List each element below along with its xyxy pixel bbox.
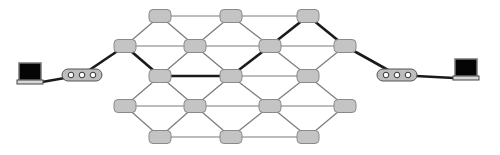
router-node-r2c3 — [259, 40, 281, 53]
router-node-r4c4 — [334, 100, 356, 113]
router-node-r5c2 — [220, 131, 242, 144]
router-node-r3c2 — [220, 70, 242, 83]
router-node-r3c3 — [297, 70, 319, 83]
routers-layer — [114, 10, 356, 144]
hub-right-icon — [377, 69, 417, 81]
router-node-r3c1 — [149, 70, 171, 83]
router-node-r2c4 — [334, 40, 356, 53]
router-node-r5c3 — [297, 131, 319, 144]
router-node-r2c2 — [184, 40, 206, 53]
router-node-r1c2 — [220, 10, 242, 23]
router-node-r5c1 — [149, 131, 171, 144]
network-mesh-diagram — [0, 0, 500, 155]
router-node-r4c1 — [114, 100, 136, 113]
laptop-right-icon — [453, 59, 479, 80]
laptop-left-icon — [17, 63, 43, 84]
router-node-r4c2 — [184, 100, 206, 113]
router-node-r2c1 — [114, 40, 136, 53]
hub-left-icon — [62, 69, 102, 81]
router-node-r4c3 — [259, 100, 281, 113]
router-node-r1c1 — [149, 10, 171, 23]
router-node-r1c3 — [297, 10, 319, 23]
